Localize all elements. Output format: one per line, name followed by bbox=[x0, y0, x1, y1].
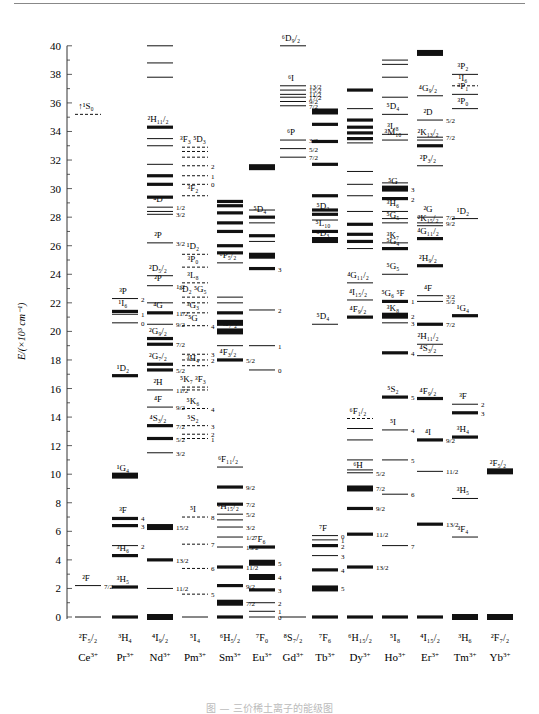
level-j-label: 3/2 bbox=[176, 211, 185, 219]
level-j-label: 5 bbox=[211, 591, 215, 599]
level-j-label: 9/2 bbox=[376, 505, 385, 513]
term-label: ⁴F₉/₂ bbox=[350, 304, 367, 314]
ground-state-label: ⁸S₇/₂ bbox=[284, 632, 303, 643]
term-label: ³F bbox=[459, 391, 467, 401]
level-j-label: 15/2 bbox=[176, 524, 189, 532]
term-label: ⁵K₇ ³F₃ bbox=[180, 374, 206, 384]
level-j-label: 3 bbox=[481, 410, 485, 418]
ion-name-label: Pr3+ bbox=[116, 651, 133, 663]
term-label: ↑¹S₀ bbox=[78, 101, 93, 111]
ion-column-ce: 7/2²F↑¹S₀²F₅/₂Ce3+ bbox=[75, 101, 113, 663]
level-j-label: 7/2 bbox=[376, 485, 385, 493]
y-tick-label: 6 bbox=[56, 525, 62, 537]
level-j-label: 0 bbox=[278, 367, 282, 375]
y-tick-label: 28 bbox=[50, 211, 62, 223]
term-label: ⁵G bbox=[188, 313, 198, 323]
level-j-label: 2 bbox=[278, 307, 282, 315]
figure-caption: 图 — 三价稀土离子的能级图 bbox=[0, 700, 539, 714]
term-label: ³P₀ bbox=[188, 254, 199, 264]
ground-state-label: ⁵I₈ bbox=[390, 632, 401, 643]
level-j-label: 3 bbox=[278, 587, 282, 595]
term-label: ³P bbox=[119, 286, 127, 296]
term-label: ¹D₂ bbox=[117, 363, 129, 373]
level-j-label: 11/2 bbox=[446, 468, 459, 476]
level-j-label: 7/2 bbox=[446, 134, 455, 142]
term-label: ³F₃ ⁵D₃ bbox=[180, 134, 206, 144]
ion-column-pr: ³H₅³H₆234³F¹G₄¹D₂01¹I₆2³P³H₄Pr3+ bbox=[112, 286, 145, 663]
term-label: ²D₅/₂ bbox=[149, 263, 167, 273]
level-j-label: 2 bbox=[481, 401, 485, 409]
ion-name-label: Pm3+ bbox=[184, 651, 206, 663]
term-label: ⁴F₉/₂ bbox=[420, 386, 437, 396]
term-label: ⁵I bbox=[390, 417, 396, 427]
level-j-label: 2 bbox=[411, 196, 415, 204]
term-label: ⁴F bbox=[424, 283, 432, 293]
ion-name-label: Er3+ bbox=[421, 651, 439, 663]
ground-state-label: ⁶H₅/₂ bbox=[220, 632, 240, 643]
ground-state-label: ²F₅/₂ bbox=[79, 632, 97, 643]
ion-column-ho: 7654⁵I5⁵S₂432³K₈1⁵G₆ ⁵F⁵G₅⁵G₄³K₇⁵G₅³H₆23… bbox=[381, 60, 415, 663]
level-j-label: 4 bbox=[141, 515, 145, 523]
level-j-label: 11/2 bbox=[176, 585, 189, 593]
level-j-label: 11/2 bbox=[176, 387, 189, 395]
level-j-label: 2 bbox=[278, 600, 282, 608]
term-label: ²F₅/₂ bbox=[490, 458, 506, 468]
level-j-label: 3/2 bbox=[176, 450, 185, 458]
term-label: ⁶H bbox=[353, 460, 363, 470]
level-j-label: 5/2 bbox=[446, 117, 455, 125]
term-label: ⁶I bbox=[288, 73, 294, 83]
term-label: ⁴F₃/₂ bbox=[220, 347, 237, 357]
term-label: ⁵S₂ bbox=[187, 413, 198, 423]
y-tick-label: 40 bbox=[50, 40, 62, 52]
ground-state-label: ³H₆ bbox=[458, 632, 472, 643]
y-tick-label: 36 bbox=[50, 97, 62, 109]
level-j-label: 5/2 bbox=[376, 470, 385, 478]
term-label: ²P bbox=[154, 230, 162, 240]
term-label: ²H₉/₂ bbox=[419, 253, 437, 263]
y-tick-label: 26 bbox=[50, 240, 62, 252]
ion-column-eu: 012345⁷F₆0123⁵D₄⁷F₀Eu3+ bbox=[249, 167, 282, 663]
level-j-label: 1 bbox=[411, 298, 415, 306]
term-label: ⁷F₆ bbox=[254, 534, 265, 544]
level-j-label: 8 bbox=[211, 514, 215, 522]
level-j-label: 7/2 bbox=[176, 423, 185, 431]
level-j-label: 13/2 bbox=[176, 557, 189, 565]
level-j-label: 5 bbox=[278, 560, 282, 568]
level-j-label: 1 bbox=[278, 608, 282, 616]
term-label: ⁷F bbox=[319, 523, 327, 533]
term-label: ²H₁₁/₂ bbox=[147, 114, 168, 124]
ion-name-label: Dy3+ bbox=[350, 651, 371, 663]
level-j-label: 5/2 bbox=[246, 511, 255, 519]
term-label: ⁶P bbox=[287, 127, 295, 137]
y-tick-label: 20 bbox=[50, 325, 62, 337]
level-j-label: 1 bbox=[211, 173, 215, 181]
y-tick-label: 22 bbox=[50, 297, 61, 309]
level-j-label: 3 bbox=[341, 553, 345, 561]
term-label: ²F bbox=[82, 573, 90, 583]
level-j-label: 7/2 bbox=[246, 600, 255, 608]
level-j-label: 3 bbox=[211, 423, 215, 431]
level-j-label: 1 bbox=[141, 311, 145, 319]
term-label: ¹G₄ bbox=[457, 303, 469, 313]
term-label: ⁵K₆ bbox=[187, 396, 200, 406]
level-j-label: 3/2 bbox=[176, 240, 185, 248]
y-tick-label: 16 bbox=[50, 383, 62, 395]
ion-column-sm: 7/29/211/213/21/23/25/2⁶H₁₅/₂7/29/2⁶F₁₁/… bbox=[217, 201, 259, 663]
term-label: ⁵G₆ ⁵F bbox=[381, 288, 404, 298]
ion-name-label: Gd3+ bbox=[283, 651, 304, 663]
level-j-label: 3 bbox=[278, 266, 282, 274]
ground-state-label: ⁵I₄ bbox=[190, 632, 201, 643]
level-j-label: 5 bbox=[411, 457, 415, 465]
term-label: ³H₄ bbox=[457, 424, 469, 434]
level-j-label: 5 bbox=[341, 585, 345, 593]
term-label: ³L₈ bbox=[187, 270, 198, 280]
term-label: ³K₇ bbox=[387, 230, 399, 240]
level-j-label: 4 bbox=[411, 350, 415, 358]
ion-name-label: Sm3+ bbox=[219, 651, 241, 663]
y-tick-label: 30 bbox=[50, 183, 62, 195]
term-label: ⁴G₉/₂ bbox=[419, 83, 437, 93]
ground-state-label: ⁴I₉/₂ bbox=[152, 632, 169, 643]
level-j-label: 2 bbox=[211, 431, 215, 439]
term-label: ⁴I₁₅/₂ bbox=[349, 287, 367, 297]
term-label: ⁶F₁₁/₂ bbox=[218, 454, 238, 464]
